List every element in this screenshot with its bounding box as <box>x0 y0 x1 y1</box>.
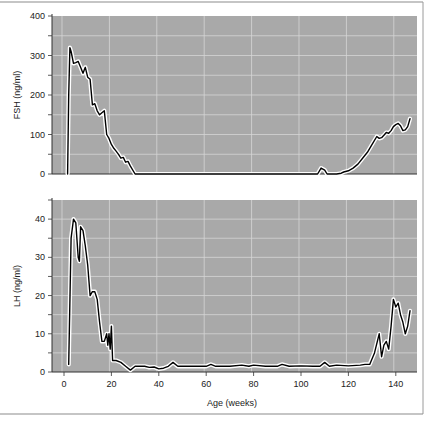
x-tick-label: 120 <box>341 379 356 389</box>
y-tick-label: 40 <box>35 214 45 224</box>
lh-y-axis-label: LH (ng/ml) <box>12 265 22 307</box>
x-tick-label: 40 <box>154 379 164 389</box>
fsh-y-axis-label: FSH (ng/ml) <box>12 71 22 120</box>
x-tick-label: 100 <box>293 379 308 389</box>
x-tick-label: 140 <box>388 379 403 389</box>
y-tick-label: 0 <box>40 169 45 179</box>
x-tick-label: 0 <box>61 379 66 389</box>
figure: 0100200300400 01020304002040608010012014… <box>0 0 432 429</box>
y-tick-label: 200 <box>30 90 45 100</box>
y-tick-label: 20 <box>35 291 45 301</box>
x-tick-label: 80 <box>249 379 259 389</box>
x-axis-label: Age (weeks) <box>207 398 257 408</box>
y-tick-label: 30 <box>35 252 45 262</box>
y-tick-label: 400 <box>30 11 45 21</box>
y-tick-label: 0 <box>40 367 45 377</box>
x-tick-label: 60 <box>201 379 211 389</box>
fsh-chart-panel: 0100200300400 <box>30 11 417 179</box>
y-tick-label: 100 <box>30 130 45 140</box>
y-tick-label: 300 <box>30 51 45 61</box>
y-tick-label: 10 <box>35 329 45 339</box>
lh-chart-panel: 010203040020406080100120140 <box>35 198 417 389</box>
x-tick-label: 20 <box>106 379 116 389</box>
